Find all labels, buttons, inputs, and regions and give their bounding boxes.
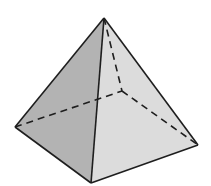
pyramid-diagram xyxy=(0,0,211,186)
